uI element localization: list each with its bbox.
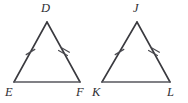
vertex-label-d: D	[41, 2, 50, 15]
tick-single-de	[26, 49, 35, 54]
segment-df	[47, 22, 80, 82]
segment-jl	[137, 22, 170, 82]
vertex-label-f: F	[76, 86, 84, 99]
vertex-label-k: K	[92, 86, 100, 99]
vertex-label-e: E	[5, 86, 13, 99]
triangle-def	[14, 22, 80, 82]
vertex-label-j: J	[133, 2, 139, 15]
triangle-jkl	[102, 22, 170, 82]
tick-single-jk	[115, 49, 124, 54]
vertex-label-l: L	[167, 86, 174, 99]
geometry-figure: D E F J K L	[0, 0, 188, 103]
